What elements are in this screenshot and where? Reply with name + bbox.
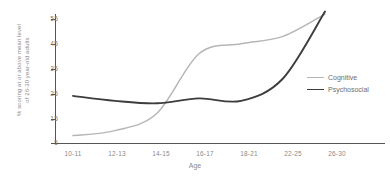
legend-swatch-cognitive — [307, 77, 324, 79]
legend-label-cognitive: Cognitive — [328, 74, 357, 81]
chart-container: % scoring at or above mean level of 26-3… — [0, 0, 390, 177]
legend-item-cognitive[interactable]: Cognitive — [307, 74, 357, 81]
legend-swatch-psychosocial — [307, 89, 324, 91]
series-line-psychosocial — [73, 12, 325, 104]
legend-item-psychosocial[interactable]: Psychosocial — [307, 86, 369, 93]
legend-label-psychosocial: Psychosocial — [328, 86, 369, 93]
